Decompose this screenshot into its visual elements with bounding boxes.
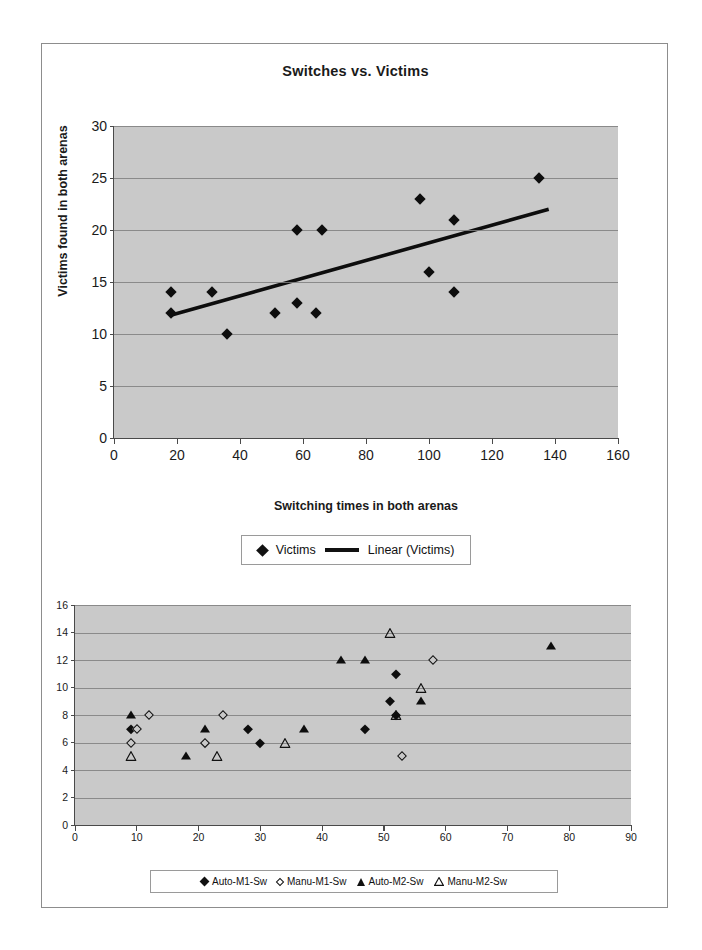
y-axis-tick-label: 15 [67,273,107,291]
x-axis-tick [240,439,241,444]
x-axis-tick-label: 20 [154,447,200,463]
data-point-manu-m1-sw [132,724,142,734]
chart1-plot-area [114,126,618,438]
legend-marker-filled-diamond-icon [200,877,210,887]
gridline [75,633,631,634]
data-point-manu-m1-sw [126,738,136,748]
x-axis-tick [198,826,199,831]
data-point-auto-m1-sw [256,738,265,747]
x-axis-tick-label: 90 [616,831,646,843]
x-axis-tick-label: 80 [554,831,584,843]
chart1-legend: Victims Linear (Victims) [241,535,471,565]
y-axis-tick-label: 10 [46,681,68,694]
gridline [114,334,618,335]
gridline [75,688,631,689]
y-axis-tick-label: 8 [46,709,68,722]
y-axis-tick-label: 16 [46,599,68,612]
data-point-auto-m2-sw [416,697,426,705]
chart-switches-vs-victims: Switches vs. Victims Victims found in bo… [42,44,669,564]
x-axis-tick-label: 0 [91,447,137,463]
data-point-manu-m2-sw [125,751,136,761]
gridline [75,770,631,771]
legend-marker-open-triangle-icon [434,877,444,886]
y-axis-tick [110,178,115,179]
chart-switching-by-mode: Auto-M1-Sw Manu-M1-Sw Auto-M2-Sw Manu-M2… [42,589,669,909]
x-axis-tick [383,826,384,831]
data-point-manu-m1-sw [200,738,210,748]
x-axis-tick-label: 80 [343,447,389,463]
y-axis-tick [110,334,115,335]
data-point-manu-m2-sw [391,710,402,720]
gridline [114,230,618,231]
data-point-auto-m2-sw [360,656,370,664]
gridline [114,282,618,283]
y-axis-tick [71,660,76,661]
data-point-manu-m1-sw [144,710,154,720]
data-point-manu-m1-sw [218,710,228,720]
data-point-manu-m2-sw [415,683,426,693]
y-axis-tick-label: 10 [67,325,107,343]
x-axis-tick [429,439,430,444]
x-axis-tick [569,826,570,831]
x-axis-tick-label: 20 [184,831,214,843]
y-axis-tick-label: 0 [67,429,107,447]
legend-item-manu-m2-sw: Manu-M2-Sw [434,876,507,887]
x-axis-tick-label: 10 [122,831,152,843]
x-axis-tick-label: 40 [307,831,337,843]
y-axis-tick-label: 5 [67,377,107,395]
y-axis-tick [71,687,76,688]
x-axis-tick [366,439,367,444]
legend-item-auto-m1-sw: Auto-M1-Sw [201,876,267,887]
x-axis-tick-label: 120 [469,447,515,463]
data-point-auto-m2-sw [181,752,191,760]
x-axis-tick [507,826,508,831]
data-point-auto-m1-sw [361,724,370,733]
data-point-auto-m1-sw [392,669,401,678]
y-axis-tick [110,282,115,283]
gridline [75,743,631,744]
x-axis-tick [303,439,304,444]
legend-marker-open-diamond-icon [276,877,284,885]
x-axis-tick-label: 70 [492,831,522,843]
y-axis-tick-label: 0 [46,819,68,832]
gridline [75,715,631,716]
legend-marker-filled-triangle-icon [357,878,365,886]
x-axis-tick [631,826,632,831]
y-axis-tick-label: 30 [67,117,107,135]
y-axis-tick [71,605,76,606]
x-axis-tick [445,826,446,831]
data-point-auto-m2-sw [299,724,309,732]
x-axis-tick-label: 40 [217,447,263,463]
data-point-auto-m2-sw [546,642,556,650]
x-axis-tick-label: 30 [245,831,275,843]
gridline [75,605,631,606]
x-axis-tick [322,826,323,831]
legend-marker-diamond-icon [256,544,269,557]
chart2-plot-area [75,605,631,825]
chart1-title: Switches vs. Victims [42,63,669,79]
y-axis-tick-label: 25 [67,169,107,187]
x-axis-tick-label: 0 [60,831,90,843]
x-axis-tick [114,439,115,444]
data-point-manu-m2-sw [212,751,223,761]
data-point-manu-m2-sw [280,738,291,748]
y-axis-tick-label: 2 [46,791,68,804]
x-axis-tick [555,439,556,444]
x-axis-line [74,825,632,826]
data-point-auto-m2-sw [126,711,136,719]
x-axis-tick [492,439,493,444]
data-point-auto-m2-sw [336,656,346,664]
legend-item-auto-m2-sw: Auto-M2-Sw [357,876,424,887]
x-axis-tick [177,439,178,444]
data-point-auto-m1-sw [243,724,252,733]
x-axis-tick-label: 100 [406,447,452,463]
legend-label-linear-victims: Linear (Victims) [368,543,455,557]
y-axis-tick-label: 14 [46,626,68,639]
x-axis-tick-label: 140 [532,447,578,463]
data-point-manu-m1-sw [397,751,407,761]
y-axis-tick [71,742,76,743]
x-axis-tick-label: 50 [369,831,399,843]
y-axis-tick [71,797,76,798]
legend-label-victims: Victims [276,543,316,557]
x-axis-tick [75,826,76,831]
